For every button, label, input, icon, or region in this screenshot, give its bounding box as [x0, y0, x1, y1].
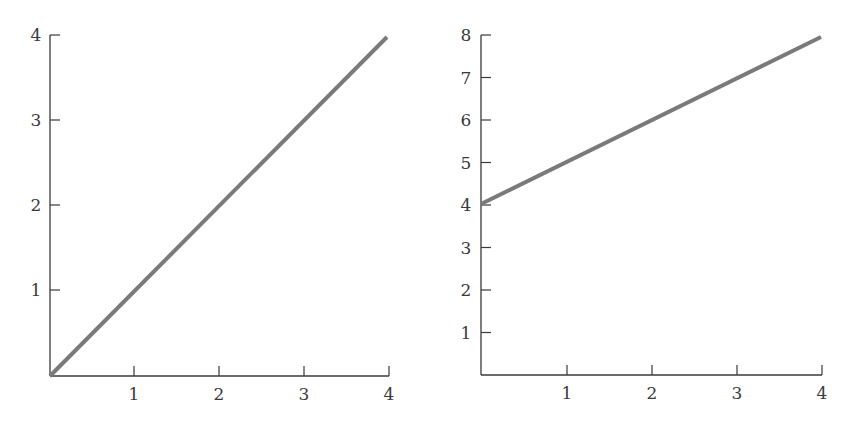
- left-y-tick-label: 4: [31, 25, 42, 45]
- left-chart: 1 2 3 4 1 2 3 4: [0, 0, 426, 424]
- left-data-line: [50, 37, 387, 376]
- left-y-tick-label: 3: [31, 110, 42, 130]
- left-chart-svg: 1 2 3 4 1 2 3 4: [0, 0, 426, 424]
- right-y-tick-label: 1: [461, 323, 472, 343]
- right-y-tick-label: 8: [461, 25, 472, 45]
- right-data-line: [481, 37, 821, 204]
- right-x-tick-label: 3: [732, 383, 743, 403]
- right-chart: 1 2 3 4 5 6 7 8 1 2 3 4: [426, 0, 853, 424]
- right-x-tick-label: 2: [647, 383, 658, 403]
- right-chart-svg: 1 2 3 4 5 6 7 8 1 2 3 4: [426, 0, 853, 424]
- right-y-tick-label: 6: [461, 110, 472, 130]
- right-x-tick-label: 4: [817, 383, 828, 403]
- left-x-tick-label: 3: [299, 384, 310, 404]
- right-y-tick-label: 7: [461, 68, 472, 88]
- right-x-tick-label: 1: [562, 383, 573, 403]
- right-y-tick-label: 5: [461, 153, 472, 173]
- left-y-tick-label: 1: [31, 280, 42, 300]
- left-x-tick-label: 1: [129, 384, 140, 404]
- left-x-tick-label: 2: [214, 384, 225, 404]
- right-y-tick-label: 2: [461, 280, 472, 300]
- right-y-tick-label: 3: [461, 238, 472, 258]
- left-y-tick-label: 2: [31, 195, 42, 215]
- right-y-tick-label: 4: [461, 195, 472, 215]
- left-x-tick-label: 4: [384, 384, 395, 404]
